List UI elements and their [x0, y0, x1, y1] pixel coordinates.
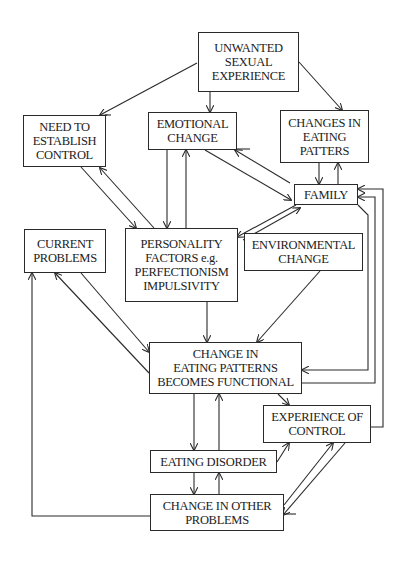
node-emotional-change: EMOTIONAL CHANGE	[148, 112, 237, 150]
flow-diagram: UNWANTED SEXUAL EXPERIENCE NEED TO ESTAB…	[0, 0, 405, 561]
node-label: UNWANTED SEXUAL EXPERIENCE	[212, 41, 285, 83]
node-label: PERSONALITY FACTORS e.g. PERFECTIONISM I…	[134, 237, 228, 293]
node-current-problems: CURRENT PROBLEMS	[24, 229, 106, 273]
node-change-in-other-problems: CHANGE IN OTHER PROBLEMS	[150, 494, 284, 531]
node-personality-factors: PERSONALITY FACTORS e.g. PERFECTIONISM I…	[125, 228, 238, 302]
node-label: CHANGE IN OTHER PROBLEMS	[163, 499, 272, 527]
node-label: CHANGE IN EATING PATTERNS BECOMES FUNCTI…	[157, 347, 294, 389]
node-changes-in-eating-patters: CHANGES IN EATING PATTERS	[280, 110, 369, 163]
node-label: EXPERIENCE OF CONTROL	[271, 410, 363, 438]
node-label: FAMILY	[304, 188, 348, 202]
node-label: EMOTIONAL CHANGE	[157, 117, 229, 145]
node-label: EATING DISORDER	[160, 455, 266, 469]
node-experience-of-control: EXPERIENCE OF CONTROL	[263, 405, 371, 443]
node-environmental-change: ENVIRONMENTAL CHANGE	[244, 233, 363, 271]
node-need-to-establish-control: NEED TO ESTABLISH CONTROL	[23, 115, 106, 167]
node-eating-disorder: EATING DISORDER	[150, 450, 277, 473]
node-family: FAMILY	[294, 184, 358, 205]
node-unwanted-sexual-experience: UNWANTED SEXUAL EXPERIENCE	[198, 32, 299, 92]
node-label: CURRENT PROBLEMS	[33, 237, 97, 265]
node-change-in-eating-patterns-functional: CHANGE IN EATING PATTERNS BECOMES FUNCTI…	[149, 342, 302, 394]
node-label: ENVIRONMENTAL CHANGE	[252, 238, 355, 266]
node-label: NEED TO ESTABLISH CONTROL	[33, 120, 97, 162]
node-label: CHANGES IN EATING PATTERS	[288, 116, 360, 158]
